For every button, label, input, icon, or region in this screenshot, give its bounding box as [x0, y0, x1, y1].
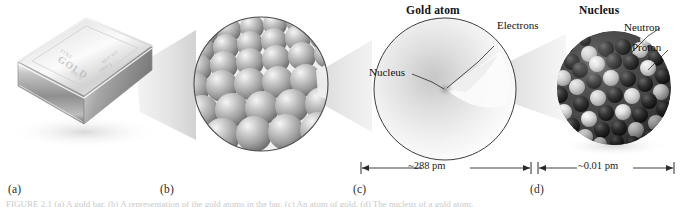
label-proton: Proton	[632, 41, 661, 53]
nucleus-heading: Nucleus	[579, 4, 619, 16]
panel-letter-a: (a)	[8, 183, 21, 195]
dimension-label-nucleus: ~0.01 pm	[578, 160, 618, 171]
panel-letter-d: (d)	[530, 183, 544, 195]
panel-letter-b: (b)	[160, 183, 174, 195]
label-neutron: Neutron	[624, 21, 660, 33]
panel-letter-c: (c)	[353, 183, 366, 195]
panel-d-nucleus	[0, 0, 689, 207]
dimension-gold-atom	[358, 161, 534, 175]
dimension-label-gold-atom: ~288 pm	[408, 160, 445, 171]
figure-caption: FIGURE 2.1 (a) A gold bar. (b) A represe…	[6, 199, 666, 207]
figure-container: FINE GOLD 999.9 NET WT. 1000 g	[0, 0, 689, 207]
